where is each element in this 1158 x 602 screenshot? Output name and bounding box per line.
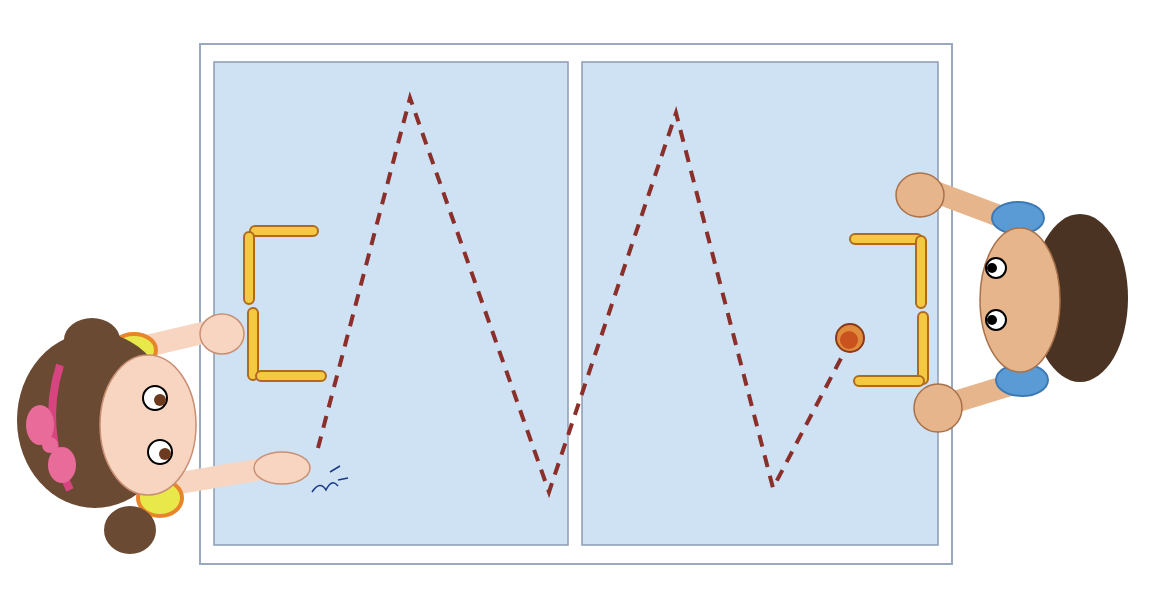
- right-field: [582, 62, 938, 545]
- game-scene: [0, 0, 1158, 602]
- puck: [836, 324, 864, 352]
